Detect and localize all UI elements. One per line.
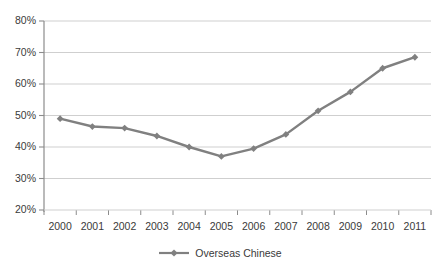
x-axis-tick-label: 2006	[238, 220, 270, 232]
y-axis-ticks	[39, 21, 44, 210]
x-axis-tick-label: 2004	[173, 220, 205, 232]
x-axis-tick-label: 2009	[334, 220, 366, 232]
data-point-marker	[89, 123, 96, 130]
x-axis-tick-label: 2008	[302, 220, 334, 232]
legend-label-overseas-chinese: Overseas Chinese	[195, 247, 281, 259]
y-axis-tick-label: 40%	[0, 140, 36, 152]
x-axis-tick-label: 2007	[270, 220, 302, 232]
x-axis-tick-label: 2002	[109, 220, 141, 232]
x-axis-ticks	[44, 210, 431, 215]
y-axis-tick-label: 70%	[0, 46, 36, 58]
data-point-marker	[218, 153, 225, 160]
chart-legend: Overseas Chinese	[0, 243, 441, 263]
y-axis-tick-label: 60%	[0, 77, 36, 89]
legend-marker-icon	[159, 248, 189, 258]
y-axis-tick-label: 30%	[0, 172, 36, 184]
x-axis-tick-label: 2001	[76, 220, 108, 232]
data-point-marker	[411, 54, 418, 61]
x-axis-tick-label: 2005	[205, 220, 237, 232]
data-point-marker	[121, 125, 128, 132]
y-axis-tick-label: 50%	[0, 109, 36, 121]
data-point-marker	[153, 133, 160, 140]
x-axis-tick-label: 2011	[399, 220, 431, 232]
x-axis-tick-label: 2000	[44, 220, 76, 232]
line-chart: 20%30%40%50%60%70%80% 200020012002200320…	[0, 0, 441, 268]
data-point-marker	[186, 144, 193, 151]
y-axis-tick-label: 80%	[0, 14, 36, 26]
x-axis-tick-label: 2010	[367, 220, 399, 232]
data-point-marker	[250, 145, 257, 152]
y-axis-tick-label: 20%	[0, 203, 36, 215]
data-point-marker	[57, 115, 64, 122]
series-markers-overseas-chinese	[57, 54, 419, 160]
x-axis-tick-label: 2003	[141, 220, 173, 232]
gridlines	[44, 21, 431, 179]
series-line-overseas-chinese	[60, 57, 415, 156]
